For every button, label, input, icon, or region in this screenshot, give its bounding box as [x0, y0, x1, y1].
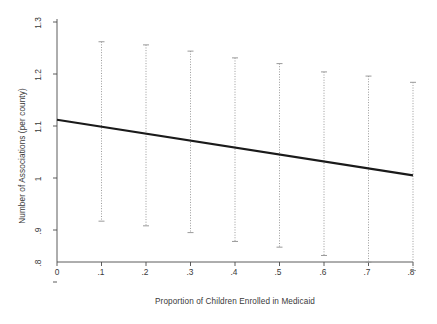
plot-area: [0, 0, 437, 324]
chart-container: Number of Associations (per county) Prop…: [0, 0, 437, 324]
error-bars: [99, 42, 417, 271]
axis-ticks: [53, 22, 413, 282]
